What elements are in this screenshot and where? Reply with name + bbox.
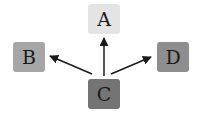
node-c: C (88, 79, 120, 109)
edge-c-to-b (50, 56, 92, 74)
node-b: B (13, 42, 45, 72)
node-d: D (157, 42, 189, 72)
node-a: A (88, 4, 120, 34)
edge-c-to-d (111, 57, 151, 74)
